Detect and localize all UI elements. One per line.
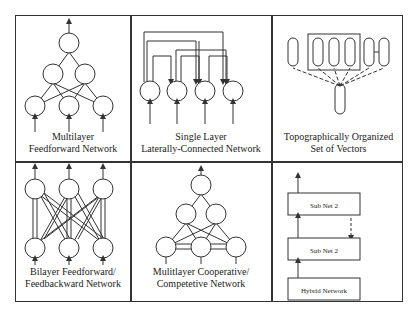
caption-line: Mulitlayer Cooperative/ (131, 266, 271, 278)
panel-caption: Bilayer Feedforward/ Feedbackward Networ… (16, 266, 130, 290)
caption-line: Competetive Network (131, 278, 271, 290)
box-label: Sub Net 2 (288, 245, 360, 257)
panel-single-layer-lateral: Single Layer Laterally-Connected Network (131, 16, 271, 161)
panel-bilayer-feedback: Bilayer Feedforward/ Feedbackward Networ… (16, 163, 130, 303)
caption-line: Topographically Organized (273, 131, 404, 143)
box-label: Sub Net 2 (288, 200, 360, 212)
figure-grid: Multilayer Feedforward Network (15, 15, 403, 302)
box-label: Hybrid Network (288, 285, 360, 297)
panel-caption: Topographically Organized Set of Vectors (273, 131, 404, 155)
caption-line: Set of Vectors (273, 143, 404, 155)
panel-multilayer-feedforward: Multilayer Feedforward Network (16, 16, 130, 161)
panel-hybrid-network: Sub Net 2 Sub Net 2 Hybrid Network (273, 163, 404, 303)
caption-line: Feedbackward Network (16, 278, 130, 290)
panel-caption: Mulitlayer Cooperative/ Competetive Netw… (131, 266, 271, 290)
caption-line: Multilayer (16, 131, 130, 143)
hybrid-network-diagram (273, 163, 404, 303)
panel-caption: Multilayer Feedforward Network (16, 131, 130, 155)
caption-line: Laterally-Connected Network (131, 143, 271, 155)
panel-multilayer-cooperative: Mulitlayer Cooperative/ Competetive Netw… (131, 163, 271, 303)
panel-caption: Single Layer Laterally-Connected Network (131, 131, 271, 155)
caption-line: Bilayer Feedforward/ (16, 266, 130, 278)
caption-line: Single Layer (131, 131, 271, 143)
caption-line: Feedforward Network (16, 143, 130, 155)
panel-topographic-vectors: Topographically Organized Set of Vectors (273, 16, 404, 161)
